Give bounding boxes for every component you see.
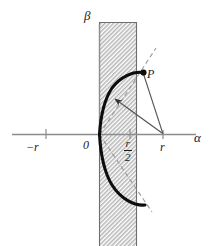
chord-to-P — [144, 74, 164, 134]
fraction-denominator: 2 — [124, 152, 132, 164]
point-P-marker — [140, 69, 146, 75]
tick-label-neg-r: −r — [26, 141, 39, 153]
alpha-axis-label: α — [194, 131, 201, 144]
origin-label: 0 — [83, 139, 89, 151]
figure-canvas — [0, 0, 213, 246]
beta-axis-label: β — [84, 9, 90, 22]
fraction-r-over-2: r 2 — [124, 138, 132, 163]
math-figure: β α P 0 −r r r 2 — [0, 0, 213, 246]
fraction-numerator: r — [124, 138, 132, 150]
point-P-label: P — [147, 68, 154, 80]
tick-label-r: r — [160, 141, 165, 153]
tick-label-r-half: r 2 — [124, 138, 132, 163]
